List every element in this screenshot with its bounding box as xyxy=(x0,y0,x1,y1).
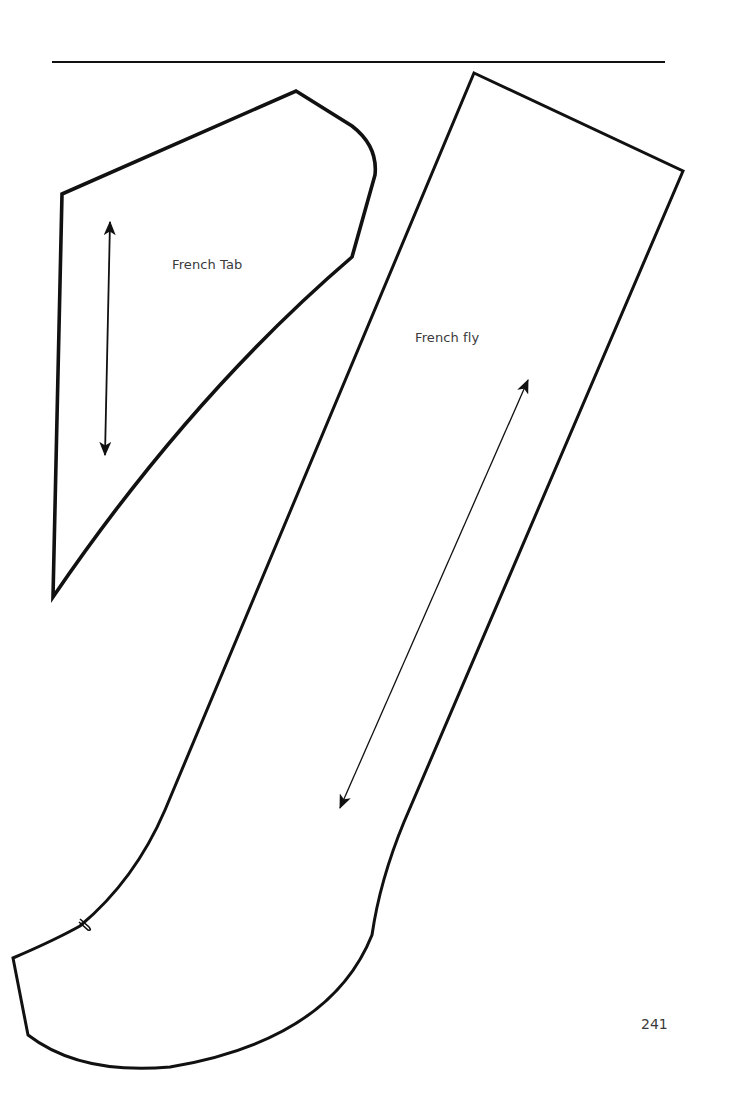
french-tab-outline xyxy=(53,91,375,597)
pattern-drawing xyxy=(0,0,733,1099)
pattern-page: French Tab French fly 241 xyxy=(0,0,733,1099)
french-fly-outline xyxy=(13,73,683,1068)
french-tab-grainline-icon xyxy=(105,222,110,455)
french-fly-grainline-icon xyxy=(340,380,528,808)
french-fly-label: French fly xyxy=(415,330,479,345)
french-fly-piece xyxy=(13,73,683,1068)
french-tab-piece xyxy=(53,91,375,597)
french-tab-label: French Tab xyxy=(172,257,242,272)
page-number: 241 xyxy=(641,1016,668,1032)
